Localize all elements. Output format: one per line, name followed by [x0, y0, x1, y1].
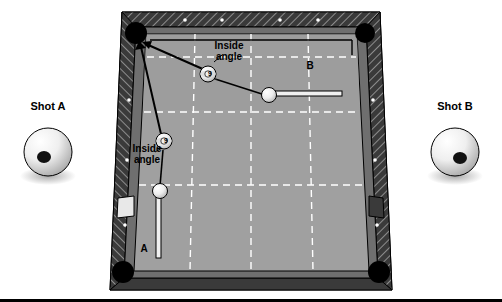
inside-angle-label-top-line1: Inside [200, 40, 258, 51]
shot-a-label: Shot A [12, 100, 84, 112]
cue-b-label: B [300, 60, 320, 71]
shot-b-ball-illustration [427, 128, 483, 185]
inside-angle-label-bottom-line2: angle [118, 154, 176, 165]
billiards-diagram: Shot A Shot B Inside angle Inside angle … [0, 0, 502, 302]
pocket-top-left [125, 22, 147, 44]
shot-a-ball-illustration [20, 128, 76, 185]
inside-angle-label-bottom-line1: Inside [118, 143, 176, 154]
bottom-rail [110, 278, 392, 290]
pocket-side-left [117, 196, 134, 218]
cue-a-label: A [134, 243, 154, 254]
top-rail [122, 12, 380, 27]
ball-number-top: 9 [206, 70, 214, 77]
pocket-bottom-left [112, 261, 134, 283]
ball-number-bottom: 9 [162, 137, 170, 144]
shot-b-label: Shot B [419, 100, 491, 112]
pocket-bottom-right [368, 261, 390, 283]
pocket-side-right [369, 196, 384, 218]
inside-angle-label-top-line2: angle [200, 51, 258, 62]
pocket-top-right [355, 23, 375, 43]
